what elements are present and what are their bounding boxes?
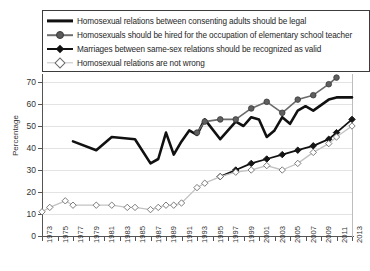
data-point-open-diamond [124, 204, 130, 210]
x-tick-label: 1991 [185, 226, 194, 243]
series-3 [39, 123, 355, 215]
chart-root: Homosexual relations between consenting … [0, 0, 370, 271]
series-2 [217, 116, 355, 180]
data-point-open-diamond [202, 180, 208, 186]
data-point-open-diamond [171, 202, 177, 208]
x-tick-label: 2003 [278, 226, 287, 243]
data-point-circle [233, 117, 239, 123]
x-tick-label: 2007 [309, 226, 318, 243]
data-point-open-diamond [109, 202, 115, 208]
x-tick-label: 1979 [92, 226, 101, 243]
data-point-diamond [279, 151, 285, 157]
x-tick-label: 1975 [61, 226, 70, 243]
data-point-open-diamond [39, 209, 45, 215]
data-point-diamond [295, 147, 301, 153]
x-tick-label: 2013 [355, 226, 364, 243]
data-point-open-diamond [93, 202, 99, 208]
data-point-open-diamond [155, 204, 161, 210]
x-tick-label: 1973 [45, 226, 54, 243]
x-tick-label: 2001 [262, 226, 271, 243]
x-tick-label: 1993 [200, 226, 209, 243]
data-point-open-diamond [264, 162, 270, 168]
data-point-circle [334, 75, 340, 81]
data-point-open-diamond [132, 204, 138, 210]
data-point-open-diamond [279, 167, 285, 173]
x-tick-label: 2009 [324, 226, 333, 243]
data-point-circle [295, 97, 301, 103]
data-point-open-diamond [147, 206, 153, 212]
series-0 [73, 97, 352, 163]
data-point-circle [264, 99, 270, 105]
x-tick-label: 1997 [231, 226, 240, 243]
data-point-open-diamond [47, 204, 53, 210]
x-tick-label: 1985 [138, 226, 147, 243]
data-point-diamond [310, 143, 316, 149]
x-tick-label: 1987 [154, 226, 163, 243]
x-tick-label: 1981 [107, 226, 116, 243]
series-line [197, 78, 337, 133]
data-point-circle [202, 119, 208, 125]
x-tick-label: 1983 [123, 226, 132, 243]
data-point-circle [310, 92, 316, 98]
data-point-diamond [248, 160, 254, 166]
data-point-circle [217, 117, 223, 123]
series-line [73, 97, 352, 163]
x-tick-label: 1995 [216, 226, 225, 243]
x-tick-label: 1977 [76, 226, 85, 243]
x-tick-label: 1989 [169, 226, 178, 243]
x-tick-label: 1999 [247, 226, 256, 243]
data-point-circle [194, 130, 200, 136]
data-point-open-diamond [248, 167, 254, 173]
series-1 [194, 75, 339, 136]
data-point-open-diamond [70, 202, 76, 208]
x-tick-label: 2005 [293, 226, 302, 243]
series-line [42, 126, 352, 212]
x-tick-label: 2011 [340, 227, 349, 243]
data-point-open-diamond [163, 202, 169, 208]
data-point-open-diamond [62, 198, 68, 204]
data-point-circle [326, 81, 332, 87]
data-point-circle [279, 110, 285, 116]
data-point-diamond [264, 156, 270, 162]
data-point-circle [248, 106, 254, 112]
data-point-open-diamond [217, 173, 223, 179]
